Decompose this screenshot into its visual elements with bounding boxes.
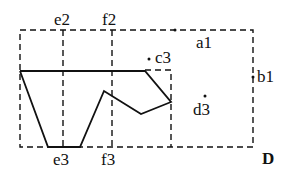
point-c3-marker [148,58,151,61]
label-d3: d3 [193,100,210,119]
solid-polygon [20,71,171,147]
label-f3: f3 [101,150,115,169]
label-a1: a1 [196,33,212,52]
point-d3-marker [204,95,207,98]
point-b1-marker [252,76,255,79]
geometry-diagram: e2 f2 a1 c3 b1 d3 e3 f3 D [0,0,292,174]
label-e3: e3 [53,150,69,169]
outer-dashed-rect [20,30,253,147]
label-b1: b1 [257,67,274,86]
point-a1-marker [174,29,177,32]
inner-dashed-rect [145,70,171,147]
label-c3: c3 [155,48,171,67]
label-e2: e2 [54,10,70,29]
label-D: D [262,149,274,168]
label-f2: f2 [102,10,116,29]
